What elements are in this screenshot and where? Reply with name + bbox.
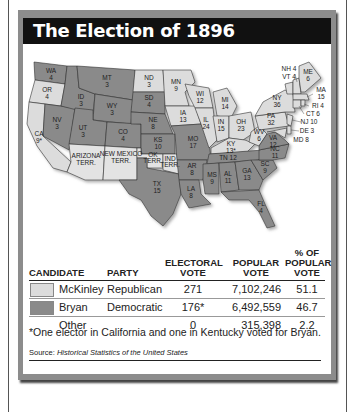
svg-text:6: 6 bbox=[306, 75, 310, 82]
svg-text:TERR.: TERR. bbox=[111, 157, 131, 164]
results-table: CANDIDATE PARTY ELECTORAL VOTE POPULAR V… bbox=[29, 244, 325, 334]
svg-text:MI: MI bbox=[221, 96, 228, 103]
svg-text:NEW MEXICO: NEW MEXICO bbox=[100, 150, 143, 157]
svg-text:AL: AL bbox=[224, 170, 232, 177]
svg-text:TX: TX bbox=[153, 180, 162, 187]
svg-text:VA: VA bbox=[269, 134, 278, 141]
cell-party: Republican bbox=[107, 283, 162, 295]
svg-text:WY: WY bbox=[107, 102, 118, 109]
election-figure: The Election of 1896 bbox=[18, 10, 336, 380]
cell-electoral: 176* bbox=[165, 301, 221, 313]
col-candidate: CANDIDATE bbox=[29, 268, 84, 278]
table-row: Bryan Democratic 176* 6,492,559 46.7 bbox=[29, 299, 325, 317]
svg-text:MA: MA bbox=[316, 86, 326, 93]
svg-text:15: 15 bbox=[317, 93, 325, 100]
page-border-left bbox=[8, 0, 9, 412]
svg-text:MN: MN bbox=[171, 78, 181, 85]
cell-candidate: McKinley bbox=[59, 283, 104, 295]
col-party: PARTY bbox=[107, 268, 139, 278]
svg-text:MS: MS bbox=[207, 171, 217, 178]
svg-text:4: 4 bbox=[49, 74, 53, 81]
svg-text:8: 8 bbox=[189, 192, 193, 199]
svg-text:CT 6: CT 6 bbox=[306, 110, 320, 117]
footnote: *One elector in California and one in Ke… bbox=[29, 326, 329, 338]
cell-popular: 6,492,559 bbox=[225, 301, 281, 313]
svg-text:NY: NY bbox=[272, 94, 282, 101]
svg-text:WI: WI bbox=[196, 90, 204, 97]
figure-body: The Election of 1896 bbox=[23, 18, 331, 374]
svg-text:12: 12 bbox=[196, 97, 204, 104]
svg-text:4: 4 bbox=[147, 101, 151, 108]
svg-text:14: 14 bbox=[221, 103, 229, 110]
svg-text:NH 4: NH 4 bbox=[282, 65, 297, 72]
svg-text:CO: CO bbox=[118, 128, 128, 135]
svg-text:WV: WV bbox=[254, 128, 265, 135]
state-ma bbox=[293, 94, 309, 100]
svg-text:3: 3 bbox=[79, 100, 83, 107]
svg-text:36: 36 bbox=[273, 101, 281, 108]
svg-text:24: 24 bbox=[202, 123, 210, 130]
table-row: McKinley Republican 271 7,102,246 51.1 bbox=[29, 281, 325, 299]
source-title: Historical Statistics of the United Stat… bbox=[57, 348, 188, 357]
svg-text:UT: UT bbox=[79, 124, 88, 131]
svg-text:TERR.: TERR. bbox=[76, 159, 96, 166]
svg-text:ARIZONA: ARIZONA bbox=[72, 152, 102, 159]
svg-text:3: 3 bbox=[55, 123, 59, 130]
svg-text:KY: KY bbox=[227, 140, 236, 147]
svg-text:17: 17 bbox=[189, 142, 197, 149]
svg-text:NV: NV bbox=[52, 116, 62, 123]
cell-pct: 51.1 bbox=[289, 283, 325, 295]
svg-text:3: 3 bbox=[105, 81, 109, 88]
cell-candidate: Bryan bbox=[59, 301, 88, 313]
svg-text:WA: WA bbox=[46, 67, 57, 74]
bryan-swatch bbox=[30, 301, 54, 315]
svg-text:10: 10 bbox=[154, 143, 162, 150]
svg-text:9: 9 bbox=[210, 178, 214, 185]
electoral-map: WA4 OR4 CA9* ID3 NV3 MT3 WY3 UT3 CO4 ND3… bbox=[23, 44, 331, 244]
source-label: Source: bbox=[29, 348, 55, 357]
svg-text:13*: 13* bbox=[226, 147, 236, 154]
svg-text:15: 15 bbox=[217, 125, 225, 132]
svg-text:15: 15 bbox=[153, 187, 161, 194]
svg-text:11: 11 bbox=[225, 177, 232, 184]
svg-text:IA: IA bbox=[180, 109, 187, 116]
svg-text:3: 3 bbox=[110, 109, 114, 116]
svg-text:TN 12: TN 12 bbox=[219, 154, 237, 161]
table-header: CANDIDATE PARTY ELECTORAL VOTE POPULAR V… bbox=[29, 244, 325, 281]
page-border-right bbox=[346, 0, 347, 412]
cell-popular: 7,102,246 bbox=[225, 283, 281, 295]
state-ct bbox=[293, 100, 301, 108]
svg-text:TERR.: TERR. bbox=[160, 161, 180, 168]
svg-text:KS: KS bbox=[154, 136, 163, 143]
col-pct-3: VOTE bbox=[285, 268, 329, 278]
svg-text:NE: NE bbox=[148, 116, 158, 123]
svg-text:AR: AR bbox=[187, 162, 196, 169]
svg-text:11: 11 bbox=[272, 152, 279, 159]
svg-text:13: 13 bbox=[243, 174, 251, 181]
svg-text:DE 3: DE 3 bbox=[300, 127, 315, 134]
cell-party: Democratic bbox=[107, 301, 163, 313]
svg-text:MD 8: MD 8 bbox=[293, 136, 309, 143]
svg-text:PA: PA bbox=[267, 112, 276, 119]
svg-text:32: 32 bbox=[267, 119, 275, 126]
svg-text:NJ 10: NJ 10 bbox=[301, 118, 318, 125]
svg-text:4: 4 bbox=[259, 207, 263, 214]
state-fl bbox=[221, 190, 275, 228]
svg-text:SC: SC bbox=[260, 160, 269, 167]
cell-electoral: 271 bbox=[165, 283, 221, 295]
col-electoral-2: VOTE bbox=[165, 268, 221, 278]
mckinley-swatch bbox=[30, 283, 54, 297]
svg-text:MT: MT bbox=[102, 74, 111, 81]
svg-text:ND: ND bbox=[144, 74, 154, 81]
svg-text:ME: ME bbox=[303, 68, 313, 75]
svg-text:IL: IL bbox=[203, 116, 209, 123]
svg-text:CA: CA bbox=[34, 130, 44, 137]
svg-text:GA: GA bbox=[242, 167, 252, 174]
state-de bbox=[287, 126, 291, 134]
svg-text:OR: OR bbox=[42, 86, 52, 93]
col-popular-2: VOTE bbox=[229, 268, 283, 278]
svg-text:RI 4: RI 4 bbox=[312, 102, 324, 109]
svg-text:OH: OH bbox=[236, 118, 246, 125]
figure-title: The Election of 1896 bbox=[33, 20, 235, 41]
state-ri bbox=[301, 100, 305, 106]
